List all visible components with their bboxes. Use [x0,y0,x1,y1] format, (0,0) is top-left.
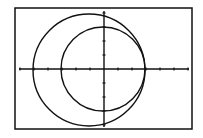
graph-canvas [0,0,203,138]
graph-screen [0,0,203,138]
